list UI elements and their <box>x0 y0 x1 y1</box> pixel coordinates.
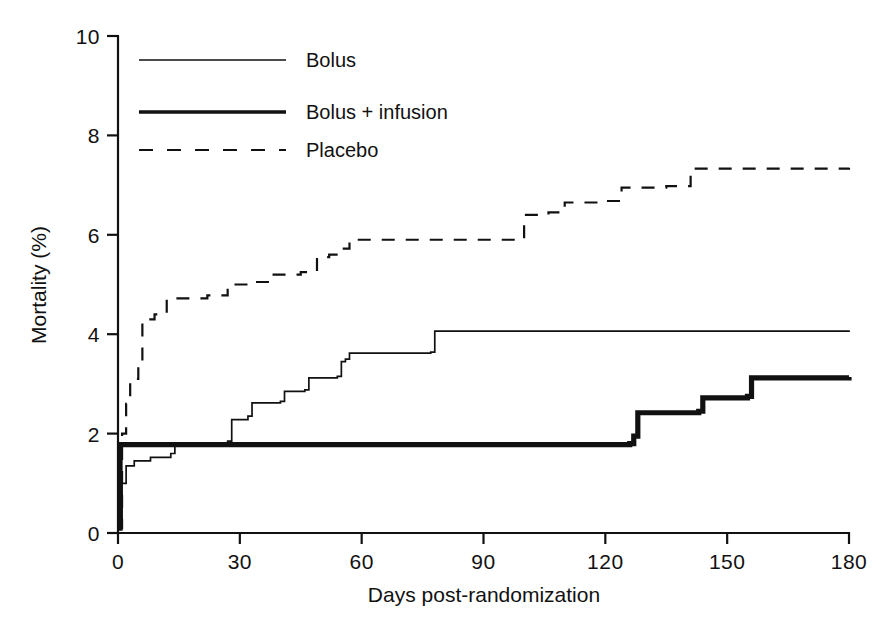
series-line-placebo <box>118 168 849 528</box>
mortality-kaplan-meier-chart: 0246810 0306090120150180 Days post-rando… <box>0 0 891 631</box>
legend-label-bolus: Bolus <box>306 49 356 71</box>
x-tick-label: 30 <box>228 550 252 573</box>
chart-figure: 0246810 0306090120150180 Days post-rando… <box>0 0 891 631</box>
x-tick-label: 150 <box>709 550 746 573</box>
y-axis-ticks: 0246810 <box>76 25 118 545</box>
x-tick-label: 60 <box>349 550 373 573</box>
x-tick-label: 180 <box>831 550 868 573</box>
y-tick-label: 10 <box>76 25 100 48</box>
y-tick-label: 0 <box>88 522 100 545</box>
y-tick-label: 4 <box>88 323 100 346</box>
series-line-bolus-infusion <box>118 377 849 528</box>
x-axis-ticks: 0306090120150180 <box>112 533 867 573</box>
chart-legend: Bolus Bolus + infusion Placebo <box>139 49 448 161</box>
legend-label-bolus-infusion: Bolus + infusion <box>306 101 448 123</box>
series-line-bolus <box>118 330 849 527</box>
y-tick-label: 8 <box>88 124 100 147</box>
y-tick-label: 2 <box>88 423 100 446</box>
y-axis-title: Mortality (%) <box>27 226 50 344</box>
y-tick-label: 6 <box>88 224 100 247</box>
x-tick-label: 90 <box>471 550 495 573</box>
series-group <box>118 168 849 528</box>
x-tick-label: 120 <box>587 550 624 573</box>
x-tick-label: 0 <box>112 550 124 573</box>
x-axis-title: Days post-randomization <box>368 583 600 606</box>
legend-label-placebo: Placebo <box>306 139 378 161</box>
